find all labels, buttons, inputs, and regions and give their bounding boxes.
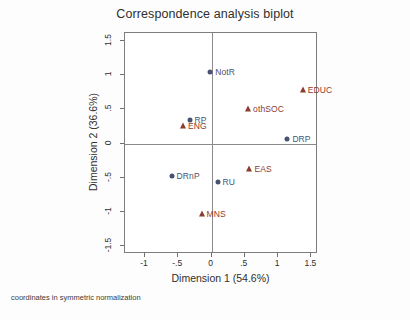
data-point-label: EDUC — [308, 85, 333, 95]
correspondence-analysis-figure: Correspondence analysis biplot NotRRPDRP… — [0, 0, 410, 320]
x-tick-mark — [310, 253, 311, 257]
x-tick-label: 1 — [275, 258, 280, 268]
triangle-marker-icon — [246, 166, 252, 172]
data-point-label: NotR — [215, 67, 235, 77]
chart-footnote: coordinates in symmetric normalization — [11, 293, 141, 302]
y-axis-title: Dimension 2 (36.6%) — [87, 93, 99, 191]
x-tick-label: 1.5 — [304, 258, 316, 268]
data-point-label: othSOC — [253, 104, 284, 114]
zero-line-horizontal — [125, 144, 316, 145]
circle-marker-icon — [285, 137, 290, 142]
data-point-label: EAS — [254, 164, 271, 174]
y-tick-label: 0 — [103, 140, 113, 145]
x-tick-mark — [177, 253, 178, 257]
x-axis-title: Dimension 1 (54.6%) — [124, 272, 317, 284]
y-tick-label: -1.5 — [103, 237, 113, 252]
circle-marker-icon — [215, 180, 220, 185]
x-tick-mark — [211, 253, 212, 257]
triangle-marker-icon — [245, 106, 251, 112]
x-tick-label: -.5 — [172, 258, 182, 268]
y-tick-mark — [120, 74, 124, 75]
x-tick-label: -1 — [140, 258, 148, 268]
x-tick-mark — [144, 253, 145, 257]
y-tick-mark — [120, 40, 124, 41]
y-tick-label: 1.5 — [103, 34, 113, 46]
triangle-marker-icon — [300, 86, 306, 92]
data-point-label: DRP — [292, 134, 310, 144]
triangle-marker-icon — [199, 211, 205, 217]
data-point-label: RU — [223, 177, 235, 187]
y-tick-mark — [120, 108, 124, 109]
x-tick-mark — [277, 253, 278, 257]
x-tick-label: 0 — [208, 258, 213, 268]
y-tick-label: .5 — [103, 105, 113, 112]
y-tick-label: 1 — [103, 72, 113, 77]
x-tick-mark — [244, 253, 245, 257]
circle-marker-icon — [208, 69, 213, 74]
data-point-label: DRnP — [177, 171, 200, 181]
y-tick-mark — [120, 143, 124, 144]
y-tick-mark — [120, 211, 124, 212]
chart-title: Correspondence analysis biplot — [0, 7, 410, 21]
x-tick-label: .5 — [240, 258, 247, 268]
y-tick-label: -1 — [103, 207, 113, 215]
y-tick-label: -.5 — [103, 172, 113, 182]
data-point-label: MNS — [207, 209, 226, 219]
plot-area: NotRRPDRPDRnPRUEDUCothSOCENGEASMNS — [124, 32, 317, 253]
y-tick-mark — [120, 177, 124, 178]
data-point-label: ENG — [188, 121, 207, 131]
triangle-marker-icon — [180, 122, 186, 128]
circle-marker-icon — [169, 173, 174, 178]
y-tick-mark — [120, 245, 124, 246]
